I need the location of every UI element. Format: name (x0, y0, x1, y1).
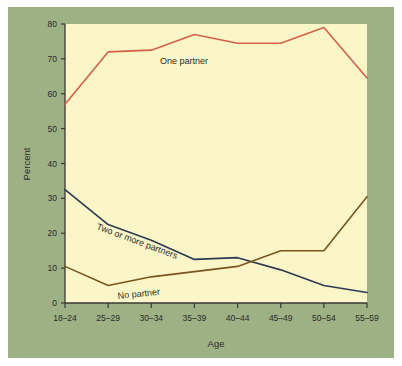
x-axis-title: Age (208, 338, 225, 349)
x-tick-label: 30–34 (139, 313, 163, 323)
y-tick-label: 80 (48, 19, 58, 29)
x-axis-ticks: 18–2425–2930–3435–3940–4445–4950–5455–59 (53, 303, 379, 323)
x-tick-label: 50–54 (312, 313, 336, 323)
series-label-one-partner: One partner (160, 56, 208, 66)
x-tick-label: 25–29 (96, 313, 120, 323)
y-axis-title: Percent (21, 147, 32, 180)
y-tick-label: 10 (48, 263, 58, 273)
y-tick-label: 0 (52, 298, 57, 308)
x-tick-label: 55–59 (355, 313, 379, 323)
x-tick-label: 35–39 (183, 313, 207, 323)
plot-background (65, 24, 367, 303)
chart-plot-area: 01020304050607080 18–2425–2930–3435–3940… (8, 7, 394, 358)
y-tick-label: 30 (48, 193, 58, 203)
x-tick-label: 18–24 (53, 313, 77, 323)
x-tick-label: 45–49 (269, 313, 293, 323)
y-tick-label: 20 (48, 228, 58, 238)
y-tick-label: 70 (48, 54, 58, 64)
y-axis-ticks: 01020304050607080 (48, 19, 65, 308)
y-tick-label: 40 (48, 159, 58, 169)
line-chart-svg: 01020304050607080 18–2425–2930–3435–3940… (8, 7, 394, 358)
chart-figure: 01020304050607080 18–2425–2930–3435–3940… (8, 7, 394, 358)
y-tick-label: 60 (48, 89, 58, 99)
x-tick-label: 40–44 (226, 313, 250, 323)
y-tick-label: 50 (48, 124, 58, 134)
